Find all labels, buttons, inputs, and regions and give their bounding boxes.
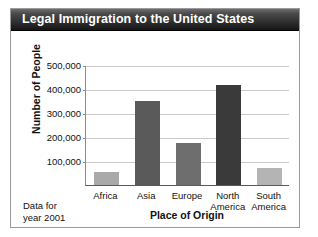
plot-area [85,66,289,186]
y-axis-tick-label: 200,000 [19,132,81,143]
y-axis-tick [83,138,86,139]
gridline [86,66,289,67]
chart-title-bar: Legal Immigration to the United States [11,9,299,31]
y-axis-tick-label: 300,000 [19,108,81,119]
annotation-line-2: year 2001 [23,212,65,224]
bar [176,143,201,185]
gridline [86,90,289,91]
gridline [86,114,289,115]
chart-body: Number of People 100,000200,000300,00040… [11,31,299,227]
bar [257,168,282,185]
chart-card: Legal Immigration to the United States N… [10,8,300,228]
x-axis-tick-label: Europe [167,190,208,201]
gridline [86,138,289,139]
y-axis-tick [83,66,86,67]
bar [216,85,241,185]
bar [135,101,160,185]
y-axis-tick [83,162,86,163]
y-axis-tick [83,90,86,91]
chart-annotation: Data for year 2001 [23,200,65,223]
y-axis-tick-label: 400,000 [19,84,81,95]
x-axis-tick-label: Asia [126,190,167,201]
bar [94,172,119,185]
x-axis-title: Place of Origin [85,209,289,221]
annotation-line-1: Data for [23,200,65,212]
y-axis-tick [83,114,86,115]
x-axis-tick-label: Africa [85,190,126,201]
y-axis-tick-label: 500,000 [19,60,81,71]
y-axis-tick-label: 100,000 [19,156,81,167]
page-title: Legal Immigration to the United States [22,12,254,26]
